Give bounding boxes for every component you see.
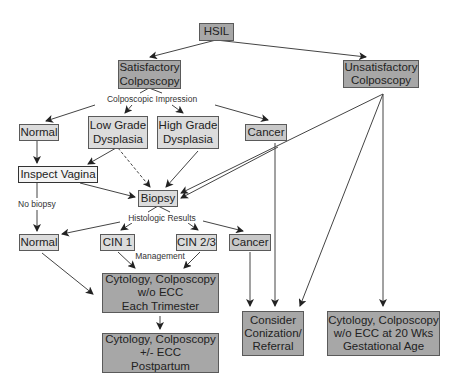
node-normal-histology: Normal [19, 234, 59, 251]
label-colposcopic-impression: Colposcopic Impression [106, 94, 198, 104]
node-cancer-impression: Cancer [245, 124, 287, 141]
flowchart: HSIL Satisfactory Colposcopy Unsatisfact… [0, 0, 454, 389]
node-cancer-histology: Cancer [229, 234, 271, 251]
node-cin2-3: CIN 2/3 [176, 234, 217, 251]
label-management: Management [134, 251, 186, 261]
node-biopsy: Biopsy [138, 190, 178, 207]
node-high-grade-dysplasia: High Grade Dysplasia [157, 116, 219, 149]
label-no-biopsy: No biopsy [17, 199, 57, 209]
node-cytology-each-trimester: Cytology, Colposcopy w/o ECC Each Trimes… [102, 273, 219, 313]
label-histologic-results: Histologic Results [127, 213, 197, 223]
node-consider-conization: Consider Conization/ Referral [242, 311, 304, 356]
node-cin1: CIN 1 [100, 234, 135, 251]
node-unsatisfactory-colposcopy: Unsatisfactory Colposcopy [343, 60, 419, 88]
node-cytology-20-weeks: Cytology, Colposcopy w/o ECC at 20 Wks G… [327, 311, 440, 356]
node-normal-impression: Normal [19, 124, 59, 141]
node-cytology-postpartum: Cytology, Colposcopy +/- ECC Postpartum [102, 333, 219, 373]
node-satisfactory-colposcopy: Satisfactory Colposcopy [118, 60, 181, 89]
node-hsil: HSIL [199, 23, 234, 41]
node-inspect-vagina: Inspect Vagina [18, 166, 98, 183]
node-low-grade-dysplasia: Low Grade Dysplasia [88, 116, 148, 149]
